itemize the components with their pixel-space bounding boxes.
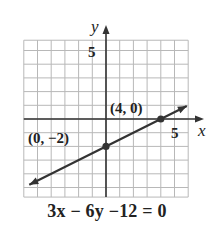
x-axis-label: x bbox=[197, 121, 206, 140]
point-label-y-intercept: (0, −2) bbox=[28, 130, 69, 147]
point-label-x-intercept: (4, 0) bbox=[110, 100, 143, 117]
data-point bbox=[157, 115, 164, 122]
data-point bbox=[102, 143, 109, 150]
y-axis-label: y bbox=[89, 17, 99, 36]
y-tick-label-5: 5 bbox=[88, 44, 96, 60]
x-tick-label-5: 5 bbox=[171, 125, 179, 141]
equation-caption: 3x − 6y −12 = 0 bbox=[0, 201, 214, 222]
coordinate-plane-graph: y x 5 5 (0, −2) (4, 0) bbox=[0, 0, 214, 227]
line-arrow-icon bbox=[177, 106, 187, 113]
y-axis-arrow-icon bbox=[103, 25, 110, 34]
